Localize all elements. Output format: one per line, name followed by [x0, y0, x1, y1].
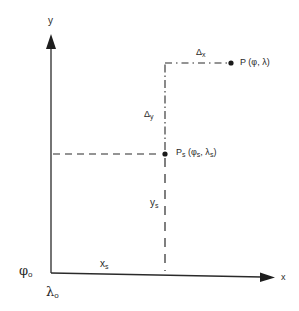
point-p-label: P (φ, λ): [240, 58, 270, 67]
delta-y-label: Δy: [144, 110, 154, 120]
coordinate-diagram: [0, 0, 299, 311]
x-axis-label: x: [281, 273, 286, 282]
ps-coords-close: ): [213, 147, 216, 157]
xs-sub: s: [105, 263, 109, 270]
origin-phi-symbol: φ: [19, 263, 28, 278]
origin-lambda-label: λo: [46, 285, 59, 300]
point-p-marker: [228, 60, 233, 65]
ys-label: ys: [150, 198, 159, 209]
y-axis-label: y: [48, 16, 53, 26]
xs-label: xs: [100, 259, 109, 270]
origin-lambda-sub: o: [54, 291, 58, 300]
y-axis-arrow-icon: [46, 34, 56, 49]
delta-y-sub: y: [150, 113, 154, 120]
ps-coords-open: (φ: [186, 147, 197, 157]
point-ps-label: Ps (φs, λs): [176, 148, 216, 158]
ys-sub: s: [155, 202, 159, 209]
ps-coords-mid: , λ: [200, 147, 210, 157]
delta-x-label: Δx: [196, 48, 206, 58]
origin-phi-sub: o: [28, 270, 32, 279]
point-ps-marker: [162, 151, 167, 156]
origin-phi-label: φo: [19, 264, 33, 279]
x-axis-arrow-icon: [260, 273, 275, 283]
delta-x-sub: x: [202, 51, 206, 58]
x-axis-line: [51, 273, 262, 277]
origin-lambda-symbol: λ: [46, 284, 54, 299]
